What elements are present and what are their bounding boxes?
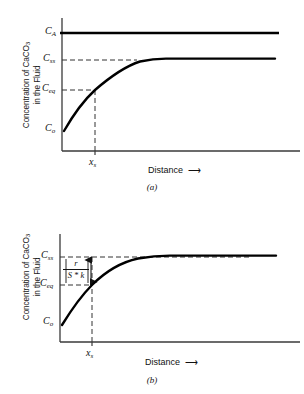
x-axis-arrow-icon-a: ⟶ (188, 165, 200, 175)
panel-a: Concentration of CaCO3 in the Fluid CA (0, 0, 304, 197)
y-tick-label-css-b: Css (41, 249, 53, 262)
y-tick-label-ceq-b: Ceq (40, 277, 53, 290)
annotation-denominator: S * k (63, 271, 89, 280)
annotation-numerator: r (63, 259, 89, 268)
y-tick-label-css-a: Css (43, 52, 55, 65)
x-tick-label-xs-a: xs (89, 156, 96, 169)
annotation-fraction-r-over-sk: r S * k (63, 259, 89, 280)
x-axis-arrow-icon-b: ⟶ (185, 357, 197, 367)
figure-container: Concentration of CaCO3 in the Fluid CA (0, 0, 304, 394)
y-tick-label-ca: CA (45, 25, 56, 38)
x-axis-title-a: Distance⟶ (148, 165, 200, 175)
concentration-curve-a (64, 59, 275, 131)
concentration-curve-b (62, 256, 276, 325)
panel-b: Concentration of CaCO3 in the Fluid (0, 197, 304, 394)
y-tick-label-co-b: Co (43, 315, 53, 328)
panel-caption-a: (a) (0, 182, 304, 192)
y-tick-label-ceq-a: Ceq (42, 82, 55, 95)
x-tick-label-xs-b: xs (86, 347, 93, 360)
panel-caption-b: (b) (0, 375, 304, 385)
x-axis-title-b: Distance⟶ (145, 357, 197, 367)
y-tick-label-co-a: Co (45, 122, 55, 135)
